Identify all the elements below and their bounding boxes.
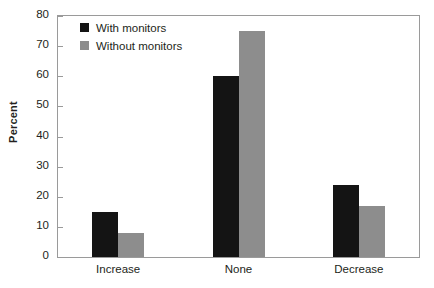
- bar-increase-with-monitors: [92, 212, 118, 257]
- bar-none-with-monitors: [213, 76, 239, 257]
- y-tick-label: 0: [43, 249, 49, 261]
- y-tick-mark: [58, 16, 63, 17]
- y-tick-label: 80: [36, 8, 49, 20]
- legend-swatch-icon: [80, 41, 89, 50]
- legend-item: With monitors: [80, 20, 182, 35]
- y-tick-mark: [58, 46, 63, 47]
- bar-decrease-with-monitors: [333, 185, 359, 257]
- y-tick-label: 50: [36, 98, 49, 110]
- y-tick-label: 40: [36, 129, 49, 141]
- bar-decrease-without-monitors: [359, 206, 385, 257]
- legend-label: With monitors: [96, 22, 166, 34]
- y-tick-label: 60: [36, 68, 49, 80]
- bar-none-without-monitors: [239, 31, 265, 257]
- bar-increase-without-monitors: [118, 233, 144, 257]
- legend-item: Without monitors: [80, 38, 182, 53]
- x-axis-label-none: None: [225, 263, 253, 275]
- y-tick-mark: [58, 167, 63, 168]
- y-axis-title: Percent: [7, 87, 19, 157]
- y-tick-mark: [58, 257, 63, 258]
- legend-swatch-icon: [80, 23, 89, 32]
- y-tick-mark: [58, 76, 63, 77]
- y-tick-mark: [58, 197, 63, 198]
- y-tick-mark: [58, 137, 63, 138]
- x-axis-label-increase: Increase: [96, 263, 140, 275]
- legend: With monitors Without monitors: [80, 20, 182, 56]
- y-tick-label: 30: [36, 159, 49, 171]
- y-tick-label: 10: [36, 219, 49, 231]
- y-tick-mark: [58, 227, 63, 228]
- bar-chart: Percent 01020304050607080 With monitors …: [0, 0, 434, 288]
- y-tick-label: 20: [36, 189, 49, 201]
- legend-label: Without monitors: [96, 40, 182, 52]
- y-tick-mark: [58, 106, 63, 107]
- y-tick-label: 70: [36, 38, 49, 50]
- x-axis-label-decrease: Decrease: [334, 263, 383, 275]
